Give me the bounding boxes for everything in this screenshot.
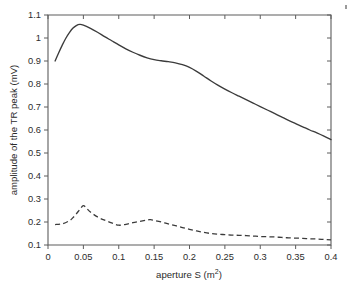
y-tick-label: 0.4 <box>28 171 41 181</box>
y-tick-label: 0.7 <box>28 102 41 112</box>
y-tick-label: 0.8 <box>28 79 41 89</box>
y-tick-label: 1 <box>36 33 41 43</box>
axis-box <box>48 15 331 245</box>
x-tick-label: 0.2 <box>183 252 196 262</box>
x-tick-label: 0.3 <box>254 252 267 262</box>
y-tick-label: 0.5 <box>28 148 41 158</box>
x-tick-label: 0.4 <box>325 252 338 262</box>
y-tick-label: 0.6 <box>28 125 41 135</box>
x-tick-label: 0.1 <box>112 252 125 262</box>
y-tick-label: 0.3 <box>28 194 41 204</box>
scan-artifact-speck <box>345 5 347 9</box>
x-tick-label: 0.05 <box>74 252 92 262</box>
series-solid-curve <box>55 24 331 139</box>
y-tick-label: 1.1 <box>28 10 41 20</box>
y-axis-ticks <box>44 15 331 245</box>
x-tick-label: 0.25 <box>216 252 234 262</box>
x-axis-title: aperture S (m2) <box>156 268 222 280</box>
x-tick-label: 0.15 <box>145 252 163 262</box>
x-axis-title-base: aperture S (m <box>156 269 215 280</box>
x-tick-label: 0.35 <box>287 252 305 262</box>
plot-frame <box>48 15 331 245</box>
y-tick-label: 0.2 <box>28 217 41 227</box>
x-axis-title-tail: ) <box>219 269 222 280</box>
series-dashed-curve <box>55 206 331 240</box>
data-series-layer <box>55 24 331 240</box>
y-axis-tick-labels: 0.10.20.30.40.50.60.70.80.911.1 <box>28 10 41 250</box>
x-axis-tick-labels: 00.050.10.150.20.250.30.350.4 <box>45 252 337 262</box>
x-axis-ticks <box>48 15 331 249</box>
chart-figure: 00.050.10.150.20.250.30.350.4 0.10.20.30… <box>0 0 352 292</box>
y-tick-label: 0.1 <box>28 240 41 250</box>
y-axis-title: amplitude of the TR peak (mV) <box>8 65 19 195</box>
y-tick-label: 0.9 <box>28 56 41 66</box>
x-tick-label: 0 <box>45 252 50 262</box>
